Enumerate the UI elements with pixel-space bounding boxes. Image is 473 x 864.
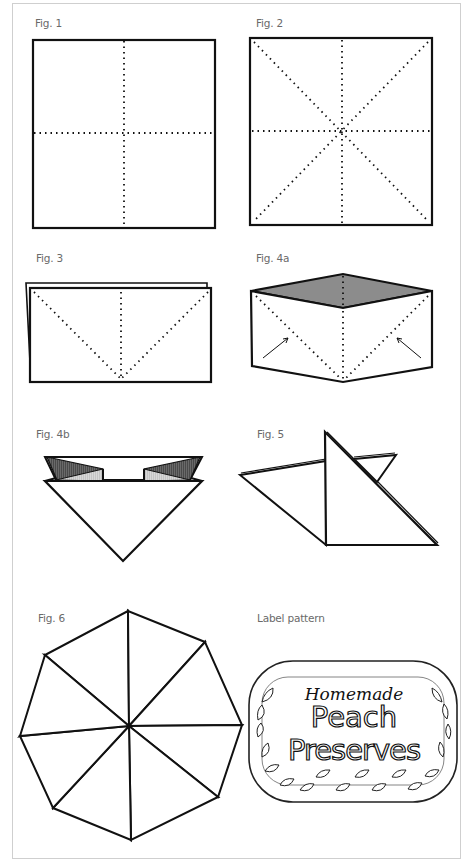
fig6-star bbox=[20, 611, 242, 840]
fig4a-open-box bbox=[251, 274, 432, 382]
fig2-square bbox=[250, 38, 432, 225]
label-preserves-text: Preserves bbox=[250, 733, 458, 767]
label-peach-text: Peach bbox=[250, 700, 458, 734]
fig1-square bbox=[33, 40, 215, 228]
fig5-triangle-pocket bbox=[240, 432, 438, 545]
fig3-folded-rectangle bbox=[26, 283, 211, 382]
fig4b-collapsed-shape bbox=[45, 457, 202, 561]
